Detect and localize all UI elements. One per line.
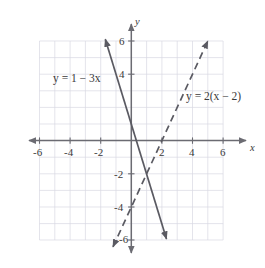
equation-label-dashed-line: y = 2(x − 2) xyxy=(186,91,241,103)
x-tick-label-neg2: -2 xyxy=(94,147,103,158)
y-tick-label-4: 4 xyxy=(119,69,125,80)
y-axis-name: y xyxy=(135,17,140,28)
equation-label-solid-line: y = 1 − 3x xyxy=(53,73,100,85)
x-tick-label-neg6: -6 xyxy=(33,147,42,158)
x-tick-label-neg4: -4 xyxy=(64,147,73,158)
x-tick-label-2: 2 xyxy=(159,147,165,158)
graph-figure: -6 -4 -2 2 4 6 6 4 -2 -4 -6 x y y = 1 − … xyxy=(0,0,265,268)
y-tick-label-6: 6 xyxy=(119,36,125,47)
x-tick-label-6: 6 xyxy=(220,147,226,158)
coordinate-plane xyxy=(0,0,265,268)
line-dashed-y-equals-2-x-minus-2 xyxy=(113,41,208,247)
x-axis-name: x xyxy=(250,143,255,154)
x-tick-label-4: 4 xyxy=(189,147,195,158)
y-tick-label-neg2: -2 xyxy=(114,169,123,180)
y-tick-label-neg6: -6 xyxy=(119,234,128,245)
y-tick-label-neg4: -4 xyxy=(114,202,123,213)
